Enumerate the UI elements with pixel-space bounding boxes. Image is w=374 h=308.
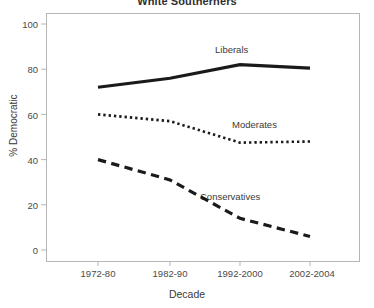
axis-tick-marks [41,24,310,266]
series-line-moderates [98,114,310,142]
series-lines-group [98,65,310,237]
chart-container: White Southerners 100 80 60 40 20 0 % De… [0,0,374,308]
chart-plot-svg [0,0,374,308]
series-line-conservatives [98,160,310,237]
series-line-liberals [98,65,310,88]
